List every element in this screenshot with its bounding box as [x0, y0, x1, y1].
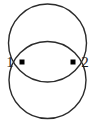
node-1-label: 1: [6, 54, 14, 70]
node-2-label: 2: [81, 54, 89, 70]
node-1-marker[interactable]: [20, 60, 25, 65]
node-2-marker[interactable]: [71, 60, 76, 65]
graph-diagram: 1 2: [0, 0, 95, 124]
figure-root: 1 2: [0, 0, 95, 124]
